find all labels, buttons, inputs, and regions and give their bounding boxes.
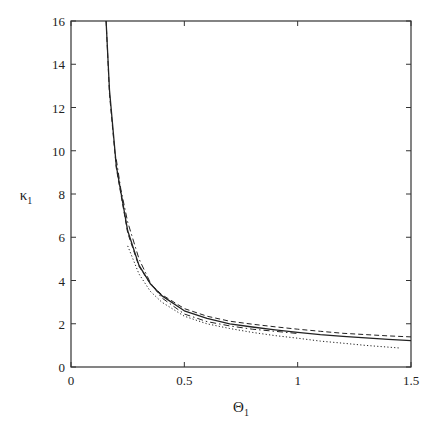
- series-dotted: [128, 246, 400, 348]
- chart: 00.511.50246810121416 Θ1 κ1: [0, 0, 439, 430]
- y-tick-label: 14: [52, 57, 66, 72]
- y-tick-label: 16: [52, 14, 66, 29]
- x-tick-label: 1: [294, 373, 301, 388]
- x-axis-label: Θ1: [233, 399, 249, 418]
- y-tick-label: 0: [59, 360, 66, 375]
- series-dash-dot: [116, 159, 297, 333]
- plot-border: [71, 21, 411, 367]
- series-dashed: [106, 21, 411, 337]
- y-tick-label: 10: [52, 144, 65, 159]
- y-tick-label: 6: [59, 230, 66, 245]
- y-tick-label: 12: [52, 101, 65, 116]
- y-axis-label: κ1: [20, 187, 33, 206]
- axis-ticks: 00.511.50246810121416: [52, 14, 419, 388]
- y-tick-label: 4: [59, 274, 66, 289]
- plot-frame: [71, 21, 411, 367]
- series-solid: [106, 21, 411, 341]
- x-tick-label: 0: [68, 373, 75, 388]
- x-tick-label: 0.5: [176, 373, 192, 388]
- y-tick-label: 2: [59, 317, 66, 332]
- series-lines: [106, 21, 411, 348]
- y-tick-label: 8: [59, 187, 66, 202]
- x-tick-label: 1.5: [403, 373, 419, 388]
